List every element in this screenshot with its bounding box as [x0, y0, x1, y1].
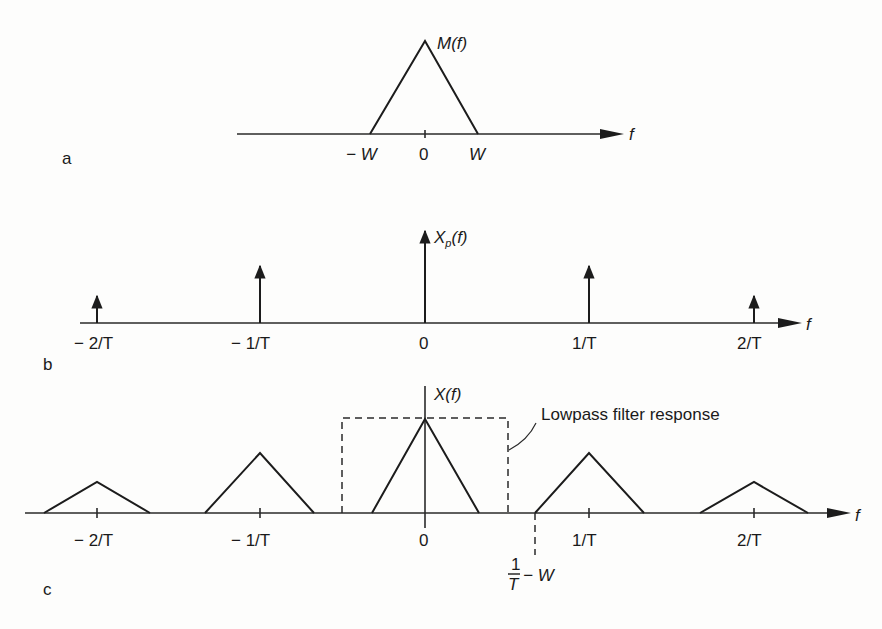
axis-label-f: f — [855, 506, 862, 525]
tick-label-zero: 0 — [419, 531, 428, 550]
function-label: Xp(f) — [433, 228, 468, 249]
panel-label-a: a — [62, 149, 72, 168]
spectrum-triangle — [370, 41, 478, 134]
annotation-lowpass: Lowpass filter response — [541, 405, 720, 424]
axis-arrow-icon — [778, 318, 802, 328]
marker-suffix: − W — [523, 566, 556, 585]
axis-label-f: f — [806, 315, 813, 334]
panel-label-b: b — [43, 355, 52, 374]
tick-label-pos1: 1/T — [572, 334, 597, 353]
marker-denominator: T — [508, 575, 520, 594]
tick-label-neg-w: − W — [346, 145, 379, 164]
tick-label-zero: 0 — [419, 145, 428, 164]
marker-numerator: 1 — [511, 555, 520, 574]
panel-label-c: c — [43, 580, 52, 599]
replica-neg1 — [205, 453, 314, 513]
axis-label-f: f — [629, 125, 636, 144]
tick-label-pos1: 1/T — [572, 531, 597, 550]
tick-label-neg1: − 1/T — [231, 334, 270, 353]
tick-label-neg2: − 2/T — [74, 334, 113, 353]
annotation-leader — [509, 423, 536, 450]
figure-canvas: f M(f) − W 0 W a f Xp(f) − 2/T − 1/T 0 1… — [0, 0, 882, 629]
panel-b: f Xp(f) − 2/T − 1/T 0 1/T 2/T b — [43, 228, 813, 374]
function-label: X(f) — [433, 385, 461, 404]
tick-label-w: W — [469, 145, 487, 164]
function-label: M(f) — [437, 34, 467, 53]
tick-label-pos2: 2/T — [737, 531, 762, 550]
panel-c: f X(f) Lowpass filter response 1 T − W −… — [25, 385, 862, 599]
tick-label-neg1: − 1/T — [231, 531, 270, 550]
panel-a: f M(f) − W 0 W a — [62, 34, 636, 168]
replica-pos1 — [535, 453, 644, 513]
tick-label-neg2: − 2/T — [74, 531, 113, 550]
axis-arrow-icon — [827, 508, 851, 518]
figure: f M(f) − W 0 W a f Xp(f) − 2/T − 1/T 0 1… — [0, 0, 882, 629]
tick-label-pos2: 2/T — [737, 334, 762, 353]
tick-label-zero: 0 — [419, 334, 428, 353]
axis-arrow-icon — [600, 129, 624, 139]
